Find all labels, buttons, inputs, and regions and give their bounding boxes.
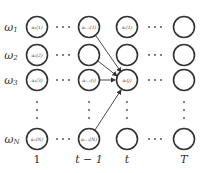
node-ct-rn <box>117 129 138 150</box>
node-cT-r3 <box>174 70 195 91</box>
svg-text:α₁(3): α₁(3) <box>31 78 42 83</box>
node-ct-r2 <box>117 45 138 66</box>
svg-text:αₜ₋₁(1): αₜ₋₁(1) <box>82 25 97 30</box>
horizontal-ellipsis-left <box>56 26 70 140</box>
svg-text:ωN: ωN <box>4 133 20 147</box>
row-label-omega-2: ω2 <box>4 49 18 63</box>
svg-text:α₁(2): α₁(2) <box>31 53 42 58</box>
svg-text:ω3: ω3 <box>4 74 18 88</box>
row-label-omega-n: ωN <box>4 133 20 147</box>
node-cT-r1 <box>174 17 195 38</box>
svg-text:αₜ₋₁(i): αₜ₋₁(i) <box>82 78 96 83</box>
node-cT-rn <box>174 129 195 150</box>
column-label-1: 1 <box>34 153 41 166</box>
column-label-T: T <box>180 153 189 166</box>
horizontal-ellipsis-right <box>148 26 162 140</box>
column-label-t-minus-1: t − 1 <box>75 153 103 166</box>
svg-text:ω1: ω1 <box>4 21 17 35</box>
svg-text:α₁(N): α₁(N) <box>31 137 44 142</box>
svg-text:αₜ₋₁(N): αₜ₋₁(N) <box>81 137 97 142</box>
column-1-nodes: α₁(1) α₁(2) α₁(3) α₁(N) <box>27 17 48 150</box>
trellis-diagram: ω1 ω2 ω3 ωN α₁(1) α₁(2) <box>0 0 205 173</box>
svg-text:α₁(1): α₁(1) <box>31 25 42 30</box>
column-T-nodes <box>174 17 195 150</box>
row-label-omega-3: ω3 <box>4 74 18 88</box>
vertical-ellipsis <box>36 101 185 119</box>
svg-text:αₜ(1): αₜ(1) <box>122 25 133 30</box>
svg-text:αₜ(j): αₜ(j) <box>122 78 131 83</box>
column-t-nodes: αₜ(1) αₜ(j) <box>117 17 138 150</box>
column-label-t: t <box>125 153 130 166</box>
node-ct1-r2 <box>79 45 100 66</box>
svg-text:ω2: ω2 <box>4 49 18 63</box>
node-cT-r2 <box>174 45 195 66</box>
row-label-omega-1: ω1 <box>4 21 17 35</box>
